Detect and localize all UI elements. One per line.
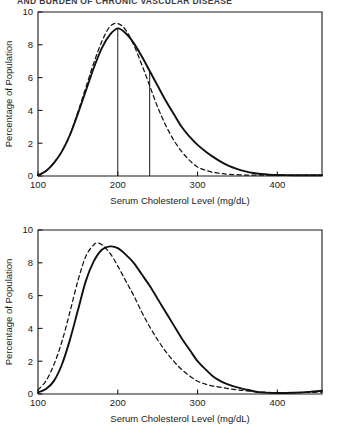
solid-curve bbox=[38, 246, 322, 393]
x-axis: 100200300400 bbox=[30, 172, 285, 191]
y-tick-label: 6 bbox=[28, 290, 33, 301]
solid-curve bbox=[38, 28, 322, 175]
cholesterol-distribution-chart-2-canvas: 0246810100200300400Serum Cholesterol Lev… bbox=[0, 224, 340, 427]
cholesterol-distribution-chart-1-canvas: 0246810100200300400Serum Cholesterol Lev… bbox=[0, 6, 340, 210]
y-tick-label: 4 bbox=[28, 323, 33, 334]
plot-frame bbox=[38, 230, 322, 394]
y-tick-label: 10 bbox=[22, 6, 33, 17]
cholesterol-distribution-chart-2: 0246810100200300400Serum Cholesterol Lev… bbox=[0, 224, 340, 427]
y-tick-label: 8 bbox=[28, 39, 33, 50]
y-axis-title: Percentage of Population bbox=[3, 41, 14, 148]
x-tick-label: 300 bbox=[190, 397, 206, 408]
data-series bbox=[38, 243, 322, 393]
dashed-curve bbox=[38, 243, 322, 393]
y-axis: 0246810 bbox=[22, 6, 42, 181]
figure-page: AND BURDEN OF CHRONIC VASCULAR DISEASE 0… bbox=[0, 0, 340, 431]
y-axis-title-group: Percentage of Population bbox=[3, 259, 14, 366]
y-tick-label: 6 bbox=[28, 72, 33, 83]
x-axis-title: Serum Cholesterol Level (mg/dL) bbox=[110, 413, 249, 424]
x-axis: 100200300400 bbox=[30, 390, 285, 409]
plot-border bbox=[38, 12, 322, 176]
y-axis-title-group: Percentage of Population bbox=[3, 41, 14, 148]
x-tick-label: 100 bbox=[30, 179, 46, 190]
plot-border bbox=[38, 230, 322, 394]
x-axis-title: Serum Cholesterol Level (mg/dL) bbox=[110, 195, 249, 206]
y-axis: 0246810 bbox=[22, 224, 42, 399]
y-tick-label: 10 bbox=[22, 224, 33, 235]
y-tick-label: 2 bbox=[28, 138, 33, 149]
vertical-markers bbox=[118, 28, 150, 176]
y-tick-label: 8 bbox=[28, 257, 33, 268]
x-tick-label: 400 bbox=[269, 397, 285, 408]
y-tick-label: 4 bbox=[28, 105, 33, 116]
plot-frame bbox=[38, 12, 322, 176]
x-tick-label: 300 bbox=[190, 179, 206, 190]
y-axis-title: Percentage of Population bbox=[3, 259, 14, 366]
x-tick-label: 400 bbox=[269, 179, 285, 190]
cholesterol-distribution-chart-1: 0246810100200300400Serum Cholesterol Lev… bbox=[0, 6, 340, 210]
x-tick-label: 200 bbox=[110, 179, 126, 190]
y-tick-label: 2 bbox=[28, 356, 33, 367]
x-tick-label: 100 bbox=[30, 397, 46, 408]
data-series bbox=[38, 23, 322, 175]
x-tick-label: 200 bbox=[110, 397, 126, 408]
dashed-curve bbox=[38, 23, 322, 175]
